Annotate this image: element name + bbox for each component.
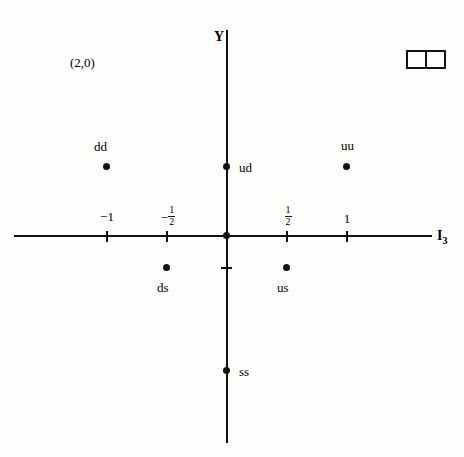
weight-diagram-figure: (2,0) Y I3 −1 −12 12 1 dd ud uu ds us ss bbox=[0, 0, 464, 457]
data-point-label-ud: ud bbox=[239, 161, 252, 174]
minus-sign: − bbox=[161, 211, 168, 224]
data-point-label-us: us bbox=[277, 281, 289, 294]
data-point-us bbox=[283, 264, 290, 271]
fraction-one-half: 12 bbox=[285, 205, 292, 227]
fraction-numerator: 1 bbox=[168, 205, 175, 217]
data-point-ds bbox=[163, 264, 170, 271]
data-point-label-uu: uu bbox=[341, 139, 354, 152]
fraction-denominator: 2 bbox=[168, 217, 175, 228]
data-point-uu bbox=[343, 163, 350, 170]
data-point-ss bbox=[223, 367, 230, 374]
x-tick-neg-one bbox=[106, 231, 108, 242]
y-axis-label: Y bbox=[214, 30, 224, 44]
young-tableau-cell bbox=[406, 50, 427, 69]
fraction-denominator: 2 bbox=[285, 217, 292, 228]
data-point-ud bbox=[223, 163, 230, 170]
x-tick-label-one: 1 bbox=[338, 212, 356, 225]
x-tick-one bbox=[346, 231, 348, 242]
origin-point bbox=[223, 232, 230, 239]
x-axis-label: I3 bbox=[437, 229, 447, 246]
fraction-one-half: 12 bbox=[168, 205, 175, 227]
young-tableau-cell bbox=[425, 50, 446, 69]
x-axis-label-subscript: 3 bbox=[442, 235, 447, 246]
data-point-dd bbox=[103, 163, 110, 170]
data-point-label-ss: ss bbox=[239, 365, 249, 378]
data-point-label-dd: dd bbox=[94, 140, 107, 153]
x-tick-label-neg-one: −1 bbox=[96, 210, 118, 223]
x-tick-neg-half bbox=[166, 231, 168, 242]
x-tick-label-neg-half: −12 bbox=[156, 206, 180, 228]
young-tableau bbox=[406, 50, 446, 69]
y-axis-label-text: Y bbox=[214, 29, 224, 44]
x-tick-half bbox=[286, 231, 288, 242]
dynkin-label-annotation: (2,0) bbox=[70, 56, 95, 69]
y-tick-neg-third bbox=[221, 267, 232, 269]
x-tick-label-half: 12 bbox=[278, 206, 298, 228]
data-point-label-ds: ds bbox=[157, 281, 169, 294]
fraction-numerator: 1 bbox=[285, 205, 292, 217]
